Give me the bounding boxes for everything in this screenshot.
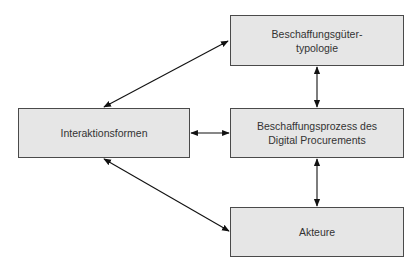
node-beschaffungsprozess: Beschaffungsprozess des Digital Procurem… (230, 108, 404, 158)
node-label-line: typologie (272, 41, 363, 55)
node-label-line: Beschaffungsprozess des (257, 119, 377, 133)
node-akteure: Akteure (230, 207, 404, 257)
diagram-canvas: Beschaffungsgüter- typologie Beschaffung… (0, 0, 418, 270)
arrow-interaction-actors (104, 159, 229, 231)
node-interaktionsformen: Interaktionsformen (18, 108, 190, 158)
arrow-interaction-typology (104, 41, 228, 107)
node-label-line: Digital Procurements (257, 133, 377, 147)
node-label: Akteure (299, 225, 335, 239)
node-label-line: Beschaffungsgüter- (272, 27, 363, 41)
node-beschaffungsgueter-typologie: Beschaffungsgüter- typologie (230, 15, 404, 66)
node-label: Interaktionsformen (61, 126, 148, 140)
